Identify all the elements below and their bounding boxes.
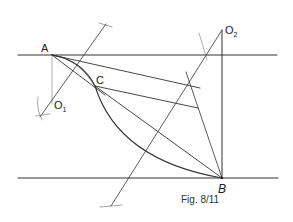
- bisector-1-cross-top: [99, 23, 112, 27]
- bisector-1-cross-bottom: [36, 114, 50, 116]
- construction-arc-top: [199, 33, 207, 60]
- figure-caption: Fig. 8/11: [181, 194, 220, 205]
- label-b: B: [218, 182, 226, 196]
- label-c: C: [96, 74, 104, 86]
- point-b-marker: [221, 177, 223, 179]
- construction-arc-o1: [38, 97, 43, 120]
- bisector-line-2: [111, 30, 222, 206]
- label-o2: O2: [225, 24, 238, 38]
- line-to-b-steep: [186, 72, 222, 178]
- geometric-construction-diagram: A C B O1 O2 Fig. 8/11: [0, 0, 293, 222]
- label-o1: O1: [54, 99, 67, 113]
- label-a: A: [41, 42, 49, 54]
